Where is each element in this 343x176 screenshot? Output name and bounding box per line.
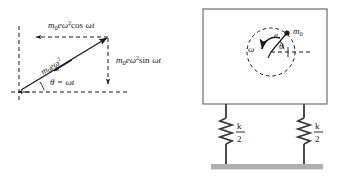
- right-spring-numerator: k: [315, 121, 320, 131]
- theta-symbol: θ: [50, 77, 55, 87]
- vertical-component-label: m0eω2sinωt: [116, 55, 161, 67]
- figure-root: m0eω2cosωt m0eω2sinωt m0eω2 θ=ωt: [0, 0, 343, 176]
- right-diagram-group: ω e θ m0 k 2: [203, 9, 327, 170]
- left-spring-denominator: 2: [237, 134, 242, 144]
- right-spring-denominator: 2: [315, 134, 320, 144]
- machine-body-box: [203, 9, 327, 104]
- right-spring-assembly: k 2: [298, 104, 323, 164]
- svg-text:m0eω2: m0eω2: [39, 56, 65, 78]
- rotor-theta-label: θ: [279, 41, 284, 51]
- left-spring-coil: [220, 118, 232, 144]
- horizontal-component-label: m0eω2cosωt: [48, 20, 95, 32]
- hcomp-arg-t: t: [92, 20, 95, 30]
- unbalance-mass-dot: [284, 30, 289, 35]
- left-spring-assembly: k 2: [220, 104, 245, 164]
- theta-equals: =: [57, 77, 62, 87]
- right-spring-label: k 2: [314, 121, 323, 144]
- theta-angle-arc: [40, 82, 44, 90]
- right-spring-coil: [298, 118, 310, 144]
- ground-support-bar: [211, 164, 323, 170]
- left-spring-numerator: k: [237, 121, 242, 131]
- resultant-force-label: m0eω2: [39, 56, 65, 78]
- figure-svg: m0eω2cosωt m0eω2sinωt m0eω2 θ=ωt: [0, 0, 343, 176]
- svg-text:m0eω2cosωt: m0eω2cosωt: [48, 20, 95, 32]
- left-diagram-group: m0eω2cosωt m0eω2sinωt m0eω2 θ=ωt: [11, 20, 161, 104]
- vcomp-arg-t: t: [158, 55, 161, 65]
- hcomp-trig: cos: [71, 20, 83, 30]
- resultant-force-vector: [21, 38, 107, 90]
- eccentricity-label: e: [274, 30, 278, 40]
- m0-sub: 0: [300, 30, 303, 37]
- theta-t: t: [72, 77, 75, 87]
- theta-equals-omega-t-label: θ=ωt: [50, 77, 75, 87]
- svg-text:m0eω2sinωt: m0eω2sinωt: [116, 55, 161, 67]
- left-spring-label: k 2: [236, 121, 245, 144]
- omega-label: ω: [248, 44, 254, 54]
- svg-text:θ=ωt: θ=ωt: [50, 77, 75, 87]
- vcomp-trig: sin: [139, 55, 150, 65]
